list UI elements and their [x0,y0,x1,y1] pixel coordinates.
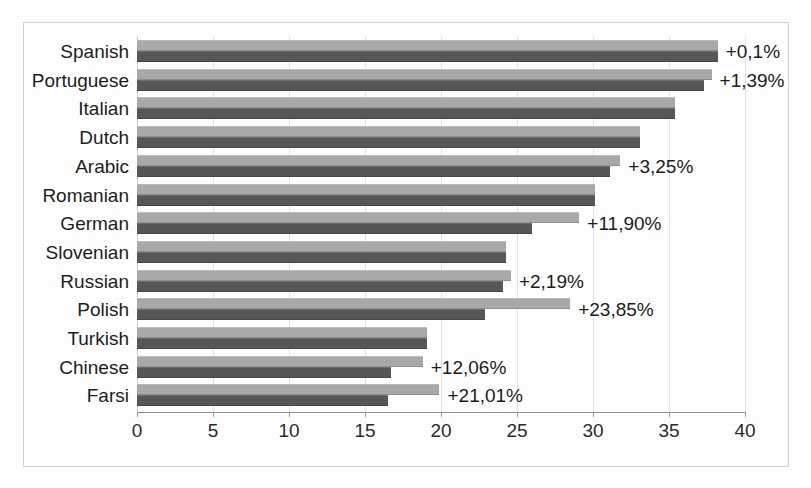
x-tick-label: 15 [342,420,388,442]
x-tick-label: 20 [418,420,464,442]
bar-current-russian [137,270,511,281]
bar-current-dutch [137,126,640,137]
bar-current-italian [137,97,675,108]
bar-current-spanish [137,40,718,51]
x-tick-label: 5 [190,420,236,442]
category-label-turkish: Turkish [0,328,129,350]
bar-previous-arabic [137,166,610,177]
category-label-chinese: Chinese [0,357,129,379]
tick-10 [289,412,290,417]
category-label-italian: Italian [0,98,129,120]
bar-current-slovenian [137,241,506,252]
category-label-farsi: Farsi [0,385,129,407]
x-tick-label: 25 [494,420,540,442]
bar-previous-russian [137,281,503,292]
category-label-german: German [0,213,129,235]
bar-previous-turkish [137,338,427,349]
growth-label-portuguese: +1,39% [720,70,785,92]
bar-previous-slovenian [137,252,506,263]
bar-previous-spanish [137,51,718,62]
bar-current-polish [137,298,570,309]
growth-label-arabic: +3,25% [628,156,693,178]
growth-label-spanish: +0,1% [726,41,780,63]
bar-previous-chinese [137,367,391,378]
category-label-russian: Russian [0,271,129,293]
category-label-arabic: Arabic [0,156,129,178]
x-tick-label: 10 [266,420,312,442]
tick-5 [213,412,214,417]
category-label-portuguese: Portuguese [0,70,129,92]
tick-15 [365,412,366,417]
growth-label-german: +11,90% [587,213,661,235]
tick-35 [669,412,670,417]
tick-40 [745,412,746,417]
x-tick-label: 30 [570,420,616,442]
tick-30 [593,412,594,417]
growth-label-russian: +2,19% [519,271,584,293]
growth-label-polish: +23,85% [578,299,654,321]
bar-current-arabic [137,155,620,166]
category-label-slovenian: Slovenian [0,242,129,264]
bar-previous-polish [137,309,485,320]
category-label-dutch: Dutch [0,127,129,149]
category-label-romanian: Romanian [0,185,129,207]
x-tick-label: 0 [114,420,160,442]
bar-current-turkish [137,327,427,338]
bar-current-german [137,212,579,223]
bar-previous-german [137,223,532,234]
tick-25 [517,412,518,417]
tick-0 [137,412,138,417]
x-tick-label: 35 [646,420,692,442]
bar-current-portuguese [137,69,712,80]
bar-previous-portuguese [137,80,704,91]
bar-current-chinese [137,356,423,367]
bar-previous-dutch [137,137,640,148]
bar-previous-farsi [137,395,388,406]
growth-label-chinese: +12,06% [431,357,507,379]
bar-previous-italian [137,108,675,119]
tick-20 [441,412,442,417]
growth-label-farsi: +21,01% [447,385,523,407]
bar-previous-romanian [137,195,595,206]
bar-chart: 0510152025303540 SpanishPortugueseItalia… [0,0,811,488]
gridline-40 [745,36,746,412]
category-label-spanish: Spanish [0,41,129,63]
category-label-polish: Polish [0,299,129,321]
gridline-35 [669,36,670,412]
x-tick-label: 40 [722,420,768,442]
bar-current-romanian [137,184,595,195]
bar-current-farsi [137,384,439,395]
